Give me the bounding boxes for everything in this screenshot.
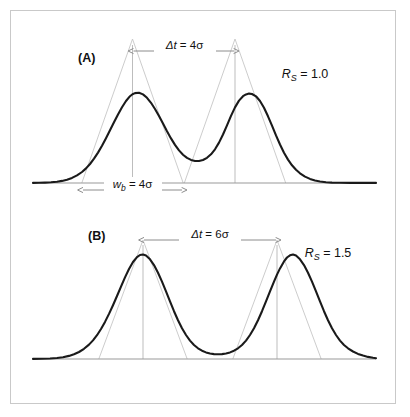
resolution-figure: (A) Δt = 4σ wb = 4σ RS = 1.0 [0, 0, 410, 417]
resolution-value-a: = 1.0 [297, 67, 329, 81]
peak-center-lines-a [133, 45, 236, 183]
delta-t-value-a: = 4σ [177, 39, 204, 51]
delta-t-symbol-b: Δt [190, 228, 203, 240]
resolution-value-b: = 1.5 [320, 246, 352, 260]
delta-t-symbol-a: Δt [165, 39, 178, 51]
panel-b: (B) Δt = 6σ RS = 1.5 [33, 228, 376, 359]
resolution-label-a: RS = 1.0 [282, 67, 329, 83]
tangent-triangles-a [82, 39, 286, 183]
resolution-label-b: RS = 1.5 [305, 246, 352, 262]
gaussian-sum-curve-a [33, 93, 376, 183]
resolution-symbol-a: R [282, 67, 291, 81]
resolution-symbol-b: R [305, 246, 314, 260]
delta-t-label-b: Δt = 6σ [190, 228, 229, 240]
panel-label-b: (B) [88, 229, 105, 243]
delta-t-annotation-b: Δt = 6σ [144, 228, 276, 243]
delta-t-annotation-a: Δt = 4σ [134, 38, 235, 53]
panel-label-a: (A) [78, 51, 95, 65]
base-width-annotation-a: wb = 4σ [83, 177, 182, 193]
delta-t-label-a: Δt = 4σ [165, 39, 204, 51]
panel-a: (A) Δt = 4σ wb = 4σ RS = 1.0 [33, 38, 376, 193]
delta-t-value-b: = 6σ [202, 228, 229, 240]
base-width-value-a: = 4σ [126, 178, 153, 190]
gaussian-sum-curve-b [33, 255, 376, 359]
peak-center-lines-b [143, 245, 277, 359]
